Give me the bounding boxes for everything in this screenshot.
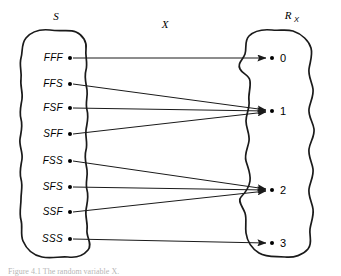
element-dot-SFS	[68, 185, 72, 189]
mapping-arrow-SSS-3	[73, 239, 266, 243]
element-label-FSS: FSS	[43, 155, 63, 166]
element-dot-SFF	[68, 132, 72, 136]
mapping-arrow-FSF-1	[73, 108, 266, 111]
value-label-0: 0	[280, 52, 286, 64]
range-space-blob	[239, 30, 314, 257]
value-label-1: 1	[280, 105, 286, 117]
element-label-FSF: FSF	[43, 102, 63, 113]
map-function-label: X	[161, 18, 170, 30]
element-dot-SSF	[68, 210, 72, 214]
mapping-arrow-FFS-1	[73, 84, 266, 110]
figure-caption: Figure 4.1 The random variable X.	[8, 267, 119, 276]
element-label-FFF: FFF	[44, 52, 64, 63]
value-dot-1	[270, 109, 274, 113]
sample-space-blob	[20, 30, 90, 258]
mapping-arrow-SFS-2	[73, 187, 266, 190]
range-space-label-subscript: X	[293, 15, 300, 24]
element-label-SSS: SSS	[42, 233, 63, 244]
element-label-SFF: SFF	[43, 128, 63, 139]
element-dot-FFF	[68, 56, 72, 60]
value-dot-2	[270, 188, 274, 192]
mapping-arrow-FSS-2	[73, 161, 266, 189]
value-label-2: 2	[280, 184, 286, 196]
element-dot-SSS	[68, 237, 72, 241]
element-dot-FSF	[68, 106, 72, 110]
mapping-arrow-SFF-1	[73, 112, 266, 134]
sample-space-label: S	[53, 10, 59, 22]
value-label-3: 3	[280, 237, 286, 249]
element-label-SFS: SFS	[43, 181, 63, 192]
value-dot-0	[270, 56, 274, 60]
element-dot-FSS	[68, 159, 72, 163]
mapping-arrow-SSF-2	[73, 191, 266, 212]
element-dot-FFS	[68, 82, 72, 86]
range-space-label-base: R	[284, 9, 292, 21]
value-dot-3	[270, 241, 274, 245]
element-label-SSF: SSF	[43, 206, 64, 217]
element-label-FFS: FFS	[43, 78, 63, 89]
